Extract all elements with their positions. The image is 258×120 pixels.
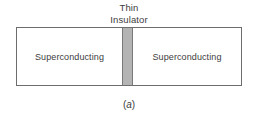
thin-insulator-label-line2: Insulator xyxy=(79,14,179,26)
superconducting-region-right: Superconducting xyxy=(133,28,241,85)
josephson-junction-figure: Thin Insulator Superconducting Supercond… xyxy=(0,0,258,120)
figure-caption: (a) xyxy=(0,99,258,110)
figure-caption-suffix: ) xyxy=(132,99,135,110)
thin-insulator-barrier xyxy=(122,28,133,85)
superconducting-region-right-label: Superconducting xyxy=(152,52,221,62)
superconducting-region-left-label: Superconducting xyxy=(35,52,104,62)
thin-insulator-label: Thin Insulator xyxy=(79,2,179,25)
superconducting-region-left: Superconducting xyxy=(17,28,122,85)
junction-rectangle: Superconducting Superconducting xyxy=(16,27,242,86)
thin-insulator-label-line1: Thin xyxy=(79,2,179,14)
